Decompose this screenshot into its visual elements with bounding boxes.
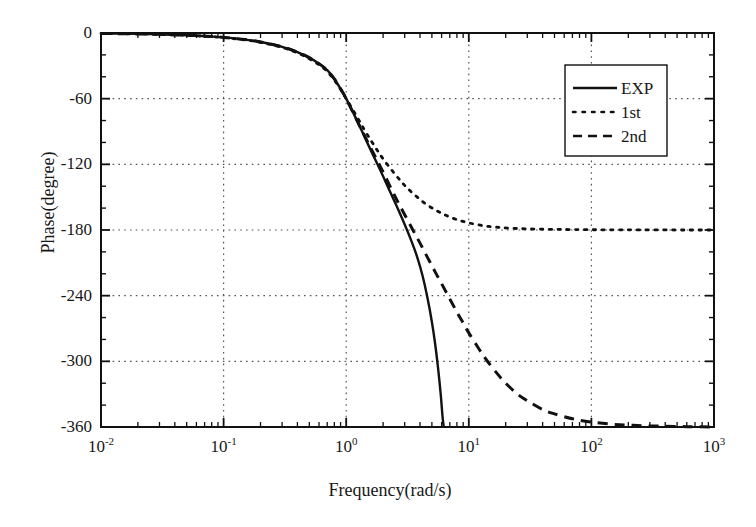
x-tick-label: 10-1 [194, 438, 254, 455]
x-tick-label: 101 [439, 438, 499, 455]
x-axis-title: Frequency(rad/s) [240, 480, 540, 501]
legend-label-1st: 1st [621, 104, 641, 121]
y-tick-label: -360 [18, 418, 92, 435]
y-tick-label: -60 [18, 90, 92, 107]
phase-bode-figure: EXP 1st 2nd 0-60-120-180-240-300-360 10-… [0, 0, 756, 527]
y-tick-label: 0 [18, 24, 92, 41]
y-axis-title: Phase(degree) [38, 113, 59, 293]
legend-label-exp: EXP [621, 80, 653, 97]
legend-label-2nd: 2nd [621, 128, 647, 145]
x-tick-label: 102 [561, 438, 621, 455]
x-tick-label: 103 [684, 438, 744, 455]
x-tick-label: 100 [316, 438, 376, 455]
y-tick-label: -300 [18, 352, 92, 369]
x-tick-label: 10-2 [71, 438, 131, 455]
